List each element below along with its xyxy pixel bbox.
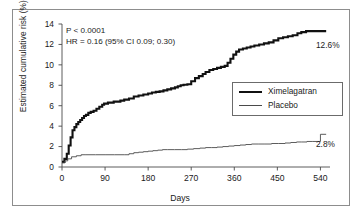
y-tick-label: 6 (38, 102, 54, 110)
x-tick-label: 270 (176, 174, 206, 183)
x-tick-label: 540 (305, 174, 335, 183)
annotation-hazard-ratio: HR = 0.16 (95% CI 0.09; 0.30) (66, 38, 175, 46)
x-tick-label: 90 (90, 174, 120, 183)
annotation-p-value: P < 0.0001 (66, 27, 105, 35)
x-tick-label: 360 (219, 174, 249, 183)
x-axis-ticks (62, 167, 320, 171)
chart-legend: Ximelagatran Placebo (232, 82, 343, 116)
legend-label-placebo: Placebo (268, 100, 298, 110)
y-tick-label: 10 (38, 61, 54, 69)
legend-swatch-ximelagatran (239, 91, 262, 93)
legend-swatch-placebo (239, 105, 262, 106)
endpoint-label-ximelagatran: 12.6% (316, 41, 340, 49)
series-line-placebo (62, 134, 326, 163)
y-tick-label: 14 (38, 20, 54, 28)
x-axis-label: Days (120, 194, 240, 203)
y-tick-label: 8 (38, 81, 54, 89)
x-tick-label: 0 (47, 174, 77, 183)
y-axis-label: Estimated cumulative risk (%) (19, 0, 27, 126)
y-tick-label: 0 (38, 163, 54, 171)
y-tick-label: 2 (38, 142, 54, 150)
kaplan-meier-figure: Estimated cumulative risk (%) Days P < 0… (0, 0, 363, 217)
y-tick-label: 12 (38, 40, 54, 48)
legend-label-ximelagatran: Ximelagatran (268, 86, 317, 96)
x-tick-label: 180 (133, 174, 163, 183)
y-tick-label: 4 (38, 122, 54, 130)
endpoint-label-placebo: 2.8% (316, 140, 335, 148)
y-axis-ticks (59, 24, 63, 167)
x-tick-label: 450 (262, 174, 292, 183)
